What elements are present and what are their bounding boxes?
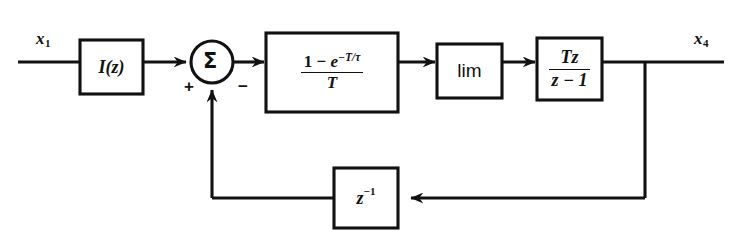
block-delay-base: z: [357, 188, 364, 209]
hold-exp-base: e: [330, 52, 338, 71]
block-diagram: x1 x4 I(z) Σ + − 1 − e−T/τ T lim Tz: [0, 0, 742, 239]
hold-denominator: T: [301, 72, 364, 92]
output-signal-subscript: 4: [703, 37, 709, 49]
hold-numerator-minus: −: [316, 52, 326, 71]
block-input-gain-text: I(z): [99, 57, 125, 78]
hold-numerator: 1 − e−T/τ: [301, 53, 364, 72]
integrator-denominator-minus: −: [563, 70, 574, 90]
block-limiter-label: lim: [437, 44, 502, 98]
summing-junction-minus-sign: −: [238, 78, 248, 95]
input-signal-subscript: 1: [45, 37, 51, 49]
integrator-fraction: Tz z − 1: [549, 48, 591, 90]
summing-junction-plus-sign: +: [184, 78, 194, 95]
output-signal-name: x: [694, 29, 703, 48]
integrator-denominator: z − 1: [549, 69, 591, 90]
integrator-numerator-T: T: [560, 47, 571, 67]
block-delay-exponent: −1: [364, 185, 376, 197]
hold-exponent: −T/τ: [338, 51, 360, 63]
hold-numerator-one: 1: [304, 52, 313, 71]
hold-fraction: 1 − e−T/τ T: [301, 53, 364, 93]
summing-junction-sigma: Σ: [203, 51, 217, 72]
output-signal-label: x4: [694, 30, 708, 47]
input-signal-label: x1: [36, 30, 50, 47]
block-limiter-text: lim: [457, 60, 481, 82]
hold-exp-tau: τ: [355, 51, 360, 63]
hold-exp-T: T: [345, 51, 352, 63]
input-signal-name: x: [36, 29, 45, 48]
block-input-gain-label: I(z): [80, 40, 143, 94]
hold-exp-sign: −: [338, 51, 345, 63]
block-delay-label: z−1: [334, 168, 398, 228]
integrator-denominator-z: z: [552, 70, 559, 90]
integrator-numerator-z: z: [571, 47, 578, 67]
block-integrator-expression: Tz z − 1: [537, 38, 602, 100]
integrator-numerator: Tz: [557, 48, 581, 68]
integrator-denominator-one: 1: [578, 70, 587, 90]
block-hold-expression: 1 − e−T/τ T: [266, 33, 398, 112]
